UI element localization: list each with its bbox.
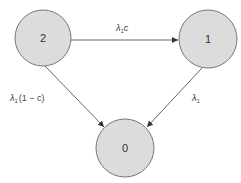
- edge-label-2-to-1: λ1c: [115, 23, 129, 34]
- state-node-1: 1: [179, 10, 237, 68]
- edge-label-2-to-0: λ1(1 − c): [9, 93, 45, 104]
- markov-state-diagram: 2 1 0 λ1c λ1(1 − c) λ1: [0, 0, 241, 183]
- edge-label-1-to-0: λ1: [191, 93, 200, 104]
- state-label: 0: [122, 142, 128, 154]
- state-label: 2: [40, 32, 46, 44]
- state-label: 1: [205, 33, 211, 45]
- state-node-2: 2: [15, 10, 71, 66]
- edge-2-to-0: [45, 66, 104, 127]
- state-node-0: 0: [96, 119, 154, 177]
